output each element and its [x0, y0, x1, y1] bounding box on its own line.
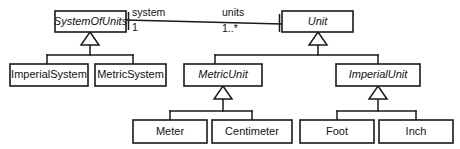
- association-line: [126, 20, 282, 24]
- class-name-label: MetricUnit: [198, 68, 248, 80]
- class-centimeter[interactable]: Centimeter: [212, 120, 292, 143]
- class-name-label: Unit: [308, 15, 329, 27]
- class-imperial-system[interactable]: ImperialSystem: [10, 64, 88, 86]
- class-meter[interactable]: Meter: [133, 120, 207, 143]
- class-inch[interactable]: Inch: [379, 120, 453, 143]
- association-source-multiplicity-label: 1: [132, 21, 138, 33]
- association-target-multiplicity-label: 1..*: [222, 22, 238, 34]
- generalization-triangle: [309, 32, 327, 45]
- class-name-label: SystemOfUnits: [54, 15, 128, 27]
- association-source-role-label: system: [132, 6, 166, 18]
- class-foot[interactable]: Foot: [300, 120, 374, 143]
- class-name-label: Foot: [326, 125, 348, 137]
- class-unit[interactable]: Unit: [282, 11, 353, 32]
- class-imperial-unit[interactable]: ImperialUnit: [336, 64, 420, 86]
- class-name-label: ImperialUnit: [349, 68, 409, 80]
- generalization-triangle: [214, 86, 232, 99]
- class-metric-unit[interactable]: MetricUnit: [184, 64, 262, 86]
- class-name-label: ImperialSystem: [11, 68, 87, 80]
- generalization-metric-unit: [170, 86, 252, 120]
- class-system-of-units[interactable]: SystemOfUnits: [54, 11, 128, 32]
- generalization-triangle: [369, 86, 387, 99]
- generalization-system-of-units: [47, 32, 133, 64]
- class-name-label: Meter: [156, 125, 184, 137]
- diagram-canvas: SystemOfUnits Unit ImperialSystem Metric…: [0, 0, 460, 149]
- class-metric-system[interactable]: MetricSystem: [95, 64, 166, 86]
- class-name-label: MetricSystem: [97, 68, 164, 80]
- generalization-unit: [215, 32, 378, 64]
- class-name-label: Inch: [406, 125, 427, 137]
- uml-class-diagram: SystemOfUnits Unit ImperialSystem Metric…: [0, 0, 460, 149]
- class-name-label: Centimeter: [225, 125, 279, 137]
- association-target-role-label: units: [222, 6, 244, 18]
- generalization-imperial-unit: [337, 86, 416, 120]
- generalization-triangle: [81, 32, 99, 45]
